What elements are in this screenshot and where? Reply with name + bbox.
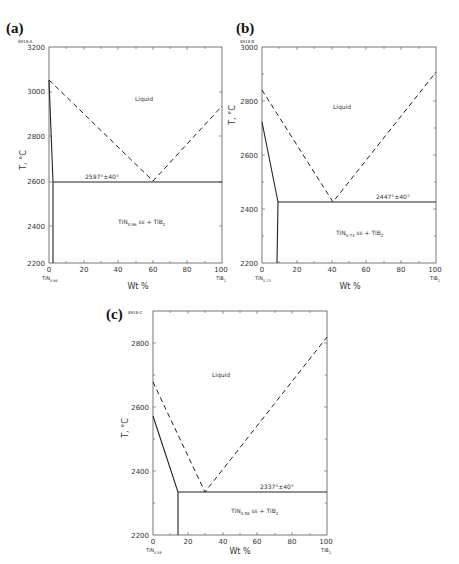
panel-c: (c) 8918-C 2800 2600 2400 2200: [106, 306, 333, 556]
svg-text:20: 20: [80, 266, 89, 274]
left-endmember-label: TiN0.58: [145, 547, 162, 555]
svg-text:2200: 2200: [240, 260, 258, 268]
eutectic-temperature-label: 2597°±40°: [85, 173, 119, 180]
panel-b: (b) 8918-B 3000 2800 2600 2400 2200: [228, 20, 442, 291]
solidus-line: [262, 122, 278, 263]
right-endmember-label: TiB2: [429, 275, 440, 283]
svg-text:100: 100: [428, 266, 441, 274]
eutectic-temperature-label: 2447°±40°: [376, 193, 410, 200]
svg-text:40: 40: [219, 538, 228, 546]
left-endmember-label: TiN0.73: [254, 275, 271, 283]
tick-marks: [153, 311, 327, 535]
panel-a: (a) 8918-A 3200 3000 2800 2600 2400 2200: [6, 20, 228, 291]
right-endmember-label: TiB2: [320, 547, 331, 555]
x-axis-ticks: 0 20 40 60 80 100: [260, 266, 442, 274]
x-axis-ticks: 0 20 40 60 80 100: [151, 538, 333, 546]
svg-text:2400: 2400: [131, 468, 149, 476]
svg-text:2400: 2400: [27, 223, 45, 231]
svg-text:60: 60: [362, 266, 371, 274]
right-endmember-label: TiB2: [215, 275, 226, 283]
phase-diagrams: (a) 8918-A 3200 3000 2800 2600 2400 2200: [0, 0, 459, 564]
svg-text:2800: 2800: [240, 98, 258, 106]
liquidus-line: [262, 72, 436, 202]
svg-text:2400: 2400: [240, 206, 258, 214]
tick-marks: [262, 47, 436, 263]
tick-marks: [49, 47, 222, 263]
solid-region-label: TiN0.73 ss + TiB2: [335, 229, 384, 238]
x-axis-label: Wt %: [339, 282, 361, 291]
liquid-region-label: Liquid: [212, 371, 230, 379]
svg-text:2200: 2200: [27, 260, 45, 268]
x-axis-label: Wt %: [229, 547, 251, 556]
panel-label: (b): [236, 20, 254, 37]
svg-text:100: 100: [319, 538, 332, 546]
panel-label: (a): [6, 20, 24, 37]
svg-text:0: 0: [151, 538, 155, 546]
svg-text:60: 60: [149, 266, 158, 274]
solidus-line: [49, 80, 53, 263]
svg-text:2600: 2600: [240, 152, 258, 160]
svg-text:100: 100: [214, 266, 227, 274]
svg-text:80: 80: [288, 538, 297, 546]
y-axis-label: T, °C: [121, 418, 130, 439]
svg-text:20: 20: [184, 538, 193, 546]
y-axis-ticks: 3000 2800 2600 2400 2200: [240, 44, 258, 268]
figure-code: 8918-C: [128, 310, 143, 315]
svg-text:3200: 3200: [27, 44, 45, 52]
svg-text:2600: 2600: [131, 404, 149, 412]
svg-text:0: 0: [260, 266, 264, 274]
liquid-region-label: Liquid: [135, 95, 153, 103]
svg-text:2600: 2600: [27, 178, 45, 186]
y-axis-label: T, °C: [228, 105, 237, 126]
svg-text:3000: 3000: [27, 88, 45, 96]
solid-region-label: TiN0.96 ss + TiB2: [117, 218, 166, 227]
svg-text:3000: 3000: [240, 44, 258, 52]
left-endmember-label: TiN0.96: [41, 275, 58, 283]
panel-label: (c): [106, 306, 123, 323]
x-axis-ticks: 0 20 40 60 80 100: [47, 266, 228, 274]
svg-text:2200: 2200: [131, 532, 149, 540]
svg-text:40: 40: [114, 266, 123, 274]
y-axis-label: T, °C: [19, 150, 28, 171]
svg-text:0: 0: [47, 266, 51, 274]
svg-text:80: 80: [183, 266, 192, 274]
plot-frame: [153, 311, 327, 535]
liquidus-line: [153, 337, 327, 492]
y-axis-ticks: 2800 2600 2400 2200: [131, 340, 149, 540]
liquid-region-label: Liquid: [333, 103, 351, 111]
plot-frame: [49, 47, 222, 263]
eutectic-temperature-label: 2337°±40°: [260, 483, 294, 490]
svg-text:2800: 2800: [27, 133, 45, 141]
solid-region-label: TiN0.58 ss + TiB2: [230, 507, 279, 516]
svg-text:60: 60: [253, 538, 262, 546]
svg-text:20: 20: [293, 266, 302, 274]
svg-text:2800: 2800: [131, 340, 149, 348]
svg-text:80: 80: [397, 266, 406, 274]
x-axis-label: Wt %: [127, 282, 149, 291]
solidus-line: [153, 416, 178, 535]
y-axis-ticks: 3200 3000 2800 2600 2400 2200: [27, 44, 45, 268]
plot-frame: [262, 47, 436, 263]
svg-text:40: 40: [328, 266, 337, 274]
